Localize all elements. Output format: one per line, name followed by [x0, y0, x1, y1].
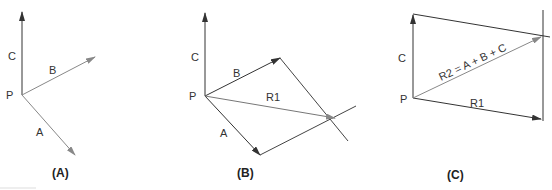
label-a: A	[220, 127, 228, 139]
label-c: C	[8, 50, 16, 62]
label-p: P	[189, 90, 196, 102]
label-b: B	[49, 64, 56, 76]
figure-c: C P R1 R2 = A + B + C (C)	[398, 10, 550, 182]
vector-a	[205, 96, 260, 155]
label-r1: R1	[266, 91, 280, 103]
caption-b: (B)	[237, 166, 254, 180]
vector-r2	[413, 37, 541, 98]
label-c: C	[191, 51, 199, 63]
caption-c: (C)	[447, 168, 464, 182]
vector-a	[22, 95, 75, 155]
figure-a: C B P A (A)	[6, 12, 95, 180]
label-r1: R1	[470, 97, 484, 109]
parallel-line-a	[280, 58, 348, 141]
figure-b: C B P R1 A (B)	[189, 13, 356, 180]
vector-addition-diagram: C B P A (A) C B P R1 A (B) C P R1 R2 = A…	[0, 0, 552, 190]
vector-b	[22, 57, 95, 95]
label-c: C	[398, 52, 406, 64]
caption-a: (A)	[52, 166, 69, 180]
label-p: P	[400, 93, 407, 105]
label-r2: R2 = A + B + C	[437, 41, 508, 83]
label-a: A	[36, 126, 44, 138]
label-b: B	[233, 67, 240, 79]
top-parallel-line	[413, 14, 550, 37]
label-p: P	[6, 89, 13, 101]
